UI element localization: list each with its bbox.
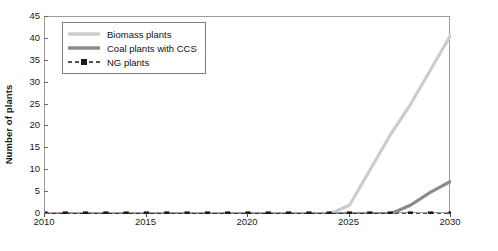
- y-axis-tick-mark: [44, 169, 48, 170]
- y-axis-tick-label: 5: [16, 186, 40, 196]
- x-axis-tick-label: 2015: [135, 216, 156, 227]
- y-axis-tick-mark: [44, 125, 48, 126]
- x-axis-tick-label: 2025: [338, 216, 359, 227]
- y-axis-tick-label: 35: [16, 55, 40, 65]
- y-axis-tick-label: 40: [16, 33, 40, 43]
- y-axis-tick-label: 25: [16, 99, 40, 109]
- chart-legend: Biomass plantsCoal plants with CCSNG pla…: [62, 22, 206, 74]
- y-axis-tick-label: 45: [16, 11, 40, 21]
- legend-swatch-icon: [68, 56, 100, 68]
- legend-label: NG plants: [107, 57, 149, 68]
- y-axis-tick-mark: [44, 104, 48, 105]
- x-axis-tick-label: 2030: [439, 216, 460, 227]
- y-axis-tick-mark: [44, 60, 48, 61]
- y-axis-tick-label: 20: [16, 120, 40, 130]
- y-axis-tick-mark: [44, 16, 48, 17]
- x-axis-tick-label: 2010: [33, 216, 54, 227]
- y-axis-tick-labels: 051015202530354045: [14, 16, 40, 213]
- y-axis-tick-label: 30: [16, 77, 40, 87]
- y-axis-tick-mark: [44, 38, 48, 39]
- legend-item[interactable]: Coal plants with CCS: [68, 41, 197, 55]
- y-axis-tick-mark: [44, 191, 48, 192]
- y-axis-tick-mark: [44, 147, 48, 148]
- legend-item[interactable]: Biomass plants: [68, 27, 197, 41]
- legend-swatch-icon: [68, 28, 100, 40]
- y-axis-tick-label: 10: [16, 164, 40, 174]
- legend-label: Coal plants with CCS: [107, 43, 197, 54]
- legend-swatch-icon: [68, 42, 100, 54]
- legend-item[interactable]: NG plants: [68, 55, 197, 69]
- x-axis-tick-labels: 20102015202020252030: [44, 216, 450, 232]
- y-axis-tick-mark: [44, 82, 48, 83]
- x-axis-tick-label: 2020: [236, 216, 257, 227]
- series-line: [45, 181, 451, 214]
- y-axis-tick-mark: [44, 213, 48, 214]
- y-axis-tick-label: 15: [16, 142, 40, 152]
- legend-label: Biomass plants: [107, 29, 171, 40]
- y-axis-title-text: Number of plants: [4, 84, 15, 164]
- figure-container: Number of plants 051015202530354045 2010…: [0, 0, 498, 251]
